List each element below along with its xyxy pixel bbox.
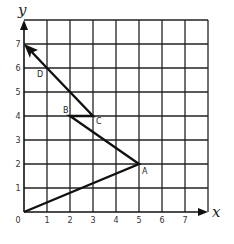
y-tick-1: 1: [15, 184, 20, 193]
x-tick-3: 3: [90, 216, 95, 225]
axes: [20, 20, 208, 216]
y-tick-7: 7: [15, 40, 20, 49]
point-label-c: C: [96, 117, 102, 126]
x-tick-2: 2: [67, 216, 72, 225]
grid-lines: [24, 20, 208, 212]
y-tick-5: 5: [15, 88, 20, 97]
y-tick-labels: 1 2 3 4 5 6 7: [15, 40, 20, 193]
x-axis-label: x: [212, 203, 221, 221]
y-axis-arrow-icon: [20, 20, 28, 30]
point-label-a: A: [142, 167, 148, 176]
y-tick-4: 4: [15, 112, 20, 121]
x-tick-7: 7: [182, 216, 187, 225]
y-tick-6: 6: [15, 64, 20, 73]
y-tick-3: 3: [15, 136, 20, 145]
x-axis-arrow-icon: [198, 208, 208, 216]
y-tick-2: 2: [15, 160, 20, 169]
x-tick-1: 1: [44, 216, 49, 225]
point-label-b: B: [63, 106, 69, 115]
y-axis-label: y: [17, 1, 27, 19]
x-tick-5: 5: [136, 216, 141, 225]
point-label-d: D: [37, 70, 43, 79]
x-tick-6: 6: [159, 216, 164, 225]
x-tick-4: 4: [113, 216, 118, 225]
x-tick-0: 0: [15, 216, 20, 225]
coordinate-grid-diagram: A B C D 0 1 2 3 4 5 6 7 1 2 3 4 5 6 7 y …: [0, 0, 234, 244]
x-tick-labels: 0 1 2 3 4 5 6 7: [15, 216, 187, 225]
